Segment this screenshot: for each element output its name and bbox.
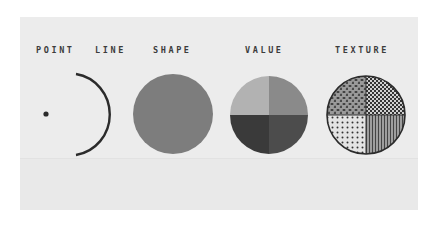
line-arc — [76, 74, 110, 155]
shape-circle — [133, 74, 213, 154]
design-elements-illustration — [0, 0, 439, 226]
value-circle — [230, 76, 308, 154]
point-dot — [43, 111, 48, 116]
